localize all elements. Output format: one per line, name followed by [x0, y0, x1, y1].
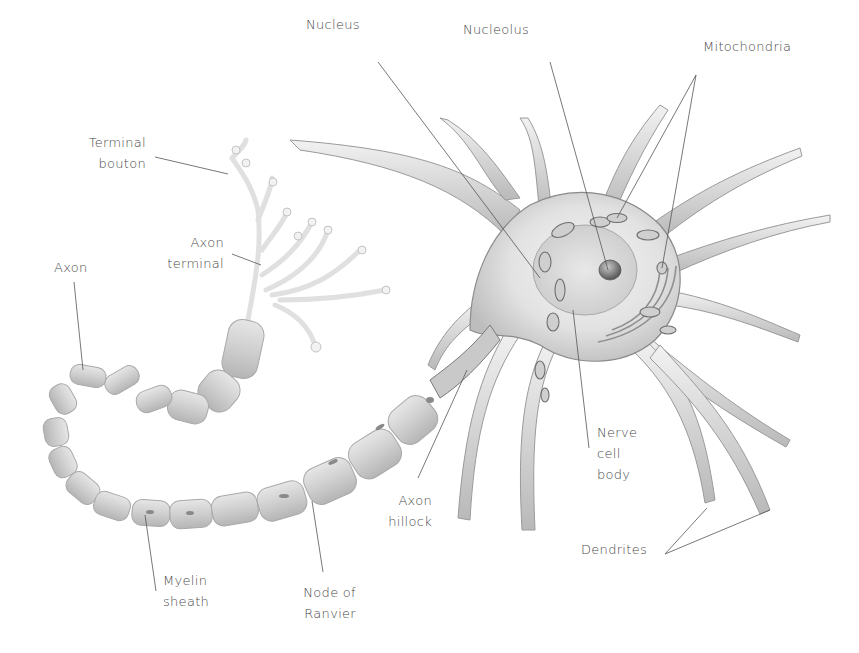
neuron-illustration — [0, 0, 859, 653]
leader-line-mitochondria — [662, 75, 696, 268]
axon-terminal-branches — [232, 140, 385, 345]
terminal-boutons — [232, 146, 390, 352]
nucleolus — [599, 260, 621, 280]
label-dendrites: Dendrites — [581, 539, 647, 560]
label-node-of-ranvier: Node of Ranvier — [270, 582, 356, 624]
label-nucleus: Nucleus — [306, 14, 360, 35]
leader-line-terminal-bouton — [155, 157, 228, 174]
leader-line-axon — [74, 282, 83, 370]
label-axon: Axon — [54, 257, 88, 278]
label-myelin-sheath: Myelin sheath — [163, 570, 209, 612]
neuron-diagram: Nucleus Nucleolus Mitochondria Terminal … — [0, 0, 859, 653]
label-nucleolus: Nucleolus — [463, 19, 529, 40]
label-terminal-bouton: Terminal bouton — [66, 132, 146, 174]
label-axon-terminal: Axon terminal — [144, 232, 224, 274]
label-axon-hillock: Axon hillock — [372, 490, 432, 532]
label-nerve-cell-body: Nerve cell body — [597, 422, 637, 485]
label-mitochondria: Mitochondria — [703, 36, 791, 57]
leader-line-dendrites — [665, 510, 770, 554]
leader-line-node-of-ranvier — [312, 501, 323, 572]
leader-line-mitochondria — [617, 75, 696, 218]
leader-line-dendrites — [665, 508, 707, 554]
